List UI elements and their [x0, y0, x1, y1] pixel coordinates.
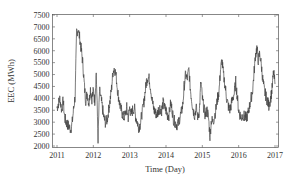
x-tick-label: 2016 [231, 151, 247, 160]
y-axis-label: EEC (MWh) [6, 59, 16, 103]
x-tick-label: 2011 [49, 151, 65, 160]
y-tick-label: 3000 [34, 118, 50, 127]
plot-frame [53, 15, 279, 148]
x-tick-label: 2015 [194, 151, 210, 160]
x-tick-label: 2013 [122, 151, 138, 160]
y-tick-label: 7500 [34, 11, 50, 20]
y-tick-label: 5000 [34, 70, 50, 79]
eec-time-series-chart: 2000250030003500400045005000550060006500… [0, 0, 299, 179]
y-tick-label: 4000 [34, 94, 50, 103]
y-tick-label: 7000 [34, 23, 50, 32]
y-tick-label: 5500 [34, 58, 50, 67]
y-tick-label: 6500 [34, 35, 50, 44]
y-tick-label: 3500 [34, 106, 50, 115]
x-tick-label: 2017 [267, 151, 283, 160]
x-tick-label: 2014 [158, 151, 174, 160]
y-tick-label: 6000 [34, 47, 50, 56]
y-tick-label: 2000 [34, 142, 50, 151]
y-tick-label: 4500 [34, 82, 50, 91]
x-tick-label: 2012 [85, 151, 101, 160]
y-tick-label: 2500 [34, 130, 50, 139]
x-axis-label: Time (Day) [145, 164, 185, 174]
